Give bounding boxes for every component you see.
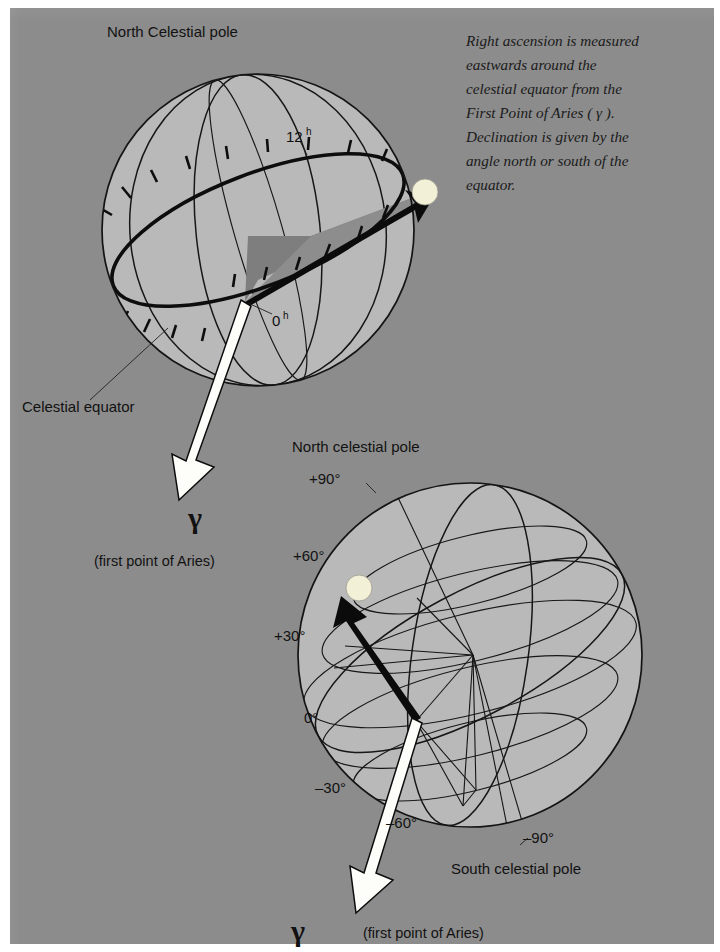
caption-line-3: celestial equator from the [466, 80, 622, 97]
bottom-dec-plus60: +60° [293, 547, 324, 564]
bottom-celestial-sphere: North celestial pole +90° +60° +30° 0° –… [274, 438, 651, 947]
bottom-star-marker [346, 575, 372, 601]
celestial-sphere-figure: North Celestial pole Celestial equator 0… [0, 0, 720, 952]
caption-block: Right ascension is measured eastwards ar… [465, 32, 639, 193]
caption-line-2: eastwards around the [466, 56, 597, 73]
caption-line-7: equator. [466, 176, 515, 193]
diagram-page: North Celestial pole Celestial equator 0… [0, 0, 720, 952]
bottom-dec-plus30: +30° [274, 627, 305, 644]
top-aries-caption: (first point of Aries) [94, 553, 215, 569]
caption-line-1: Right ascension is measured [465, 32, 639, 49]
bottom-dec-minus60: –60° [386, 814, 417, 831]
svg-text:0: 0 [272, 312, 280, 329]
bottom-dec-minus90: –90° [523, 829, 554, 846]
svg-text:12: 12 [286, 128, 303, 145]
top-star-marker [412, 179, 438, 205]
bottom-dec-zero: 0° [304, 709, 318, 726]
top-sphere-title: North Celestial pole [107, 23, 238, 40]
top-equator-label: Celestial equator [22, 398, 135, 415]
bottom-north-pole-label: North celestial pole [292, 438, 420, 455]
bottom-aries-symbol: γ [290, 914, 305, 947]
bottom-dec-plus90: +90° [309, 470, 340, 487]
caption-line-5: Declination is given by the [465, 128, 629, 145]
top-aries-symbol: γ [187, 501, 202, 534]
svg-text:h: h [306, 126, 312, 137]
bottom-dec-minus30: –30° [315, 779, 346, 796]
top-celestial-sphere: North Celestial pole Celestial equator 0… [22, 23, 438, 569]
svg-text:h: h [283, 310, 289, 321]
caption-line-6: angle north or south of the [466, 152, 629, 169]
bottom-plus90-leader [366, 483, 376, 493]
bottom-south-pole-label: South celestial pole [451, 860, 581, 877]
bottom-aries-caption: (first point of Aries) [363, 925, 484, 941]
caption-line-4: First Point of Aries ( γ ). [465, 104, 615, 122]
top-equator-leader [90, 328, 168, 400]
